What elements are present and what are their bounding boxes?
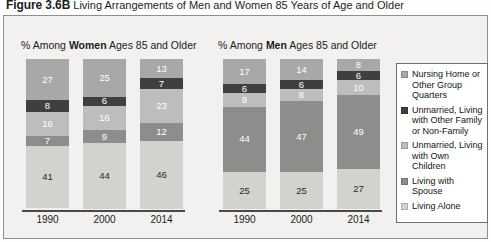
men-segment-2000-4: 25 <box>280 172 323 210</box>
women-segment-2000-1: 6 <box>83 97 126 106</box>
men-segment-2014-2: 10 <box>337 80 380 95</box>
men-value-label: 27 <box>353 184 364 194</box>
women-value-label: 46 <box>156 170 167 180</box>
legend-item-1[interactable]: Unmarried, Living with Other Family or N… <box>401 105 483 137</box>
legend-item-label: Nursing Home or Other Group Quarters <box>412 69 483 101</box>
men-tick-2000: 2000 <box>280 214 323 225</box>
women-segment-2014-4: 46 <box>140 141 183 209</box>
women-segment-1990-3: 7 <box>26 136 69 147</box>
women-segment-2014-1: 7 <box>140 78 183 88</box>
women-tick-2000: 2000 <box>83 214 126 225</box>
women-value-label: 7 <box>159 79 164 89</box>
women-segment-1990-1: 8 <box>26 100 69 112</box>
legend-item-label: Unmarried, Living with Other Family or N… <box>412 105 483 137</box>
men-value-label: 9 <box>242 95 247 105</box>
legend-item-label: Living with Spouse <box>412 176 483 197</box>
men-header-prefix: % Among <box>218 39 266 51</box>
women-segment-1990-4: 41 <box>26 146 69 208</box>
women-segment-1990-0: 27 <box>26 59 69 100</box>
women-value-label: 41 <box>42 172 53 182</box>
men-segment-2014-0: 8 <box>337 59 380 71</box>
women-value-label: 44 <box>99 171 110 181</box>
men-tick-1990: 1990 <box>223 214 266 225</box>
men-value-label: 6 <box>299 80 304 89</box>
legend-swatch-icon <box>401 142 408 149</box>
men-segment-2014-4: 27 <box>337 169 380 210</box>
men-value-label: 14 <box>296 65 307 75</box>
figure-caption: Living Arrangements of Men and Women 85 … <box>70 0 404 11</box>
men-axis-line <box>219 210 382 212</box>
men-segment-2000-3: 47 <box>280 101 323 172</box>
women-stacked-bar-chart: 2781674125616944137231246 199020002014 <box>18 59 193 226</box>
women-bar-column-2000: 25616944 <box>83 59 126 209</box>
legend-item-4[interactable]: Living Alone <box>401 201 483 212</box>
men-segment-2000-1: 6 <box>280 80 323 89</box>
women-bar-column-2014: 137231246 <box>140 59 183 209</box>
men-value-label: 49 <box>353 127 364 137</box>
figure-number: Figure 3.6B <box>6 0 70 12</box>
women-tick-2014: 2014 <box>140 214 183 225</box>
figure-root: Figure 3.6B Living Arrangements of Men a… <box>0 0 491 242</box>
men-value-label: 10 <box>353 83 364 93</box>
men-chart-header: % Among Men Ages 85 and Older <box>218 39 377 51</box>
women-header-suffix: Ages 85 and Older <box>107 39 197 51</box>
legend-swatch-icon <box>401 71 408 78</box>
women-segment-2000-2: 16 <box>83 106 126 130</box>
men-segment-1990-3: 44 <box>223 107 266 172</box>
legend-item-3[interactable]: Living with Spouse <box>401 176 483 197</box>
legend-item-2[interactable]: Unmarried, Living with Own Children <box>401 140 483 172</box>
women-value-label: 23 <box>156 101 167 111</box>
men-value-label: 25 <box>239 186 250 196</box>
women-bar-columns: 2781674125616944137231246 <box>18 59 193 209</box>
women-value-label: 16 <box>99 113 110 123</box>
men-value-label: 25 <box>296 186 307 196</box>
women-segment-2000-0: 25 <box>83 59 126 97</box>
men-value-label: 47 <box>296 132 307 142</box>
women-segment-2000-3: 9 <box>83 130 126 144</box>
women-value-label: 9 <box>102 132 107 142</box>
women-value-label: 16 <box>42 119 53 129</box>
women-value-label: 13 <box>156 64 167 74</box>
men-value-label: 6 <box>242 84 247 93</box>
legend-swatch-icon <box>401 203 408 210</box>
men-segment-2000-2: 8 <box>280 89 323 101</box>
men-value-label: 44 <box>239 134 250 144</box>
women-value-label: 25 <box>99 73 110 83</box>
men-value-label: 8 <box>356 60 361 70</box>
legend-item-label: Living Alone <box>412 201 461 212</box>
women-segment-2014-3: 12 <box>140 123 183 141</box>
figure-panel: % Among Women Ages 85 and Older % Among … <box>3 15 488 239</box>
women-segment-2014-0: 13 <box>140 59 183 78</box>
women-value-label: 8 <box>45 101 50 111</box>
men-segment-1990-0: 17 <box>223 59 266 84</box>
men-segment-2014-1: 6 <box>337 71 380 80</box>
figure-title: Figure 3.6B Living Arrangements of Men a… <box>6 0 486 13</box>
men-header-emphasis: Men <box>266 39 287 51</box>
men-axis-tick-labels: 199020002014 <box>215 214 390 228</box>
men-segment-2000-0: 14 <box>280 59 323 80</box>
legend-swatch-icon <box>401 178 408 185</box>
men-segment-1990-4: 25 <box>223 172 266 209</box>
women-chart-header: % Among Women Ages 85 and Older <box>21 39 197 51</box>
legend-item-label: Unmarried, Living with Own Children <box>412 140 483 172</box>
men-value-label: 17 <box>239 67 250 77</box>
legend-swatch-icon <box>401 107 408 114</box>
women-header-prefix: % Among <box>21 39 69 51</box>
women-value-label: 7 <box>45 136 50 146</box>
men-value-label: 6 <box>356 71 361 80</box>
men-bar-columns: 176944251468472586104927 <box>215 59 390 209</box>
men-bar-column-1990: 17694425 <box>223 59 266 209</box>
men-bar-column-2000: 14684725 <box>280 59 323 209</box>
women-axis-line <box>22 210 185 212</box>
women-segment-1990-2: 16 <box>26 112 69 136</box>
chart-legend: Nursing Home or Other Group QuartersUnma… <box>396 63 488 223</box>
men-value-label: 8 <box>299 90 304 100</box>
women-axis-tick-labels: 199020002014 <box>18 214 193 228</box>
men-segment-1990-1: 6 <box>223 84 266 93</box>
women-bar-column-1990: 27816741 <box>26 59 69 209</box>
men-segment-2014-3: 49 <box>337 95 380 169</box>
legend-item-0[interactable]: Nursing Home or Other Group Quarters <box>401 69 483 101</box>
women-segment-2014-2: 23 <box>140 89 183 123</box>
women-value-label: 6 <box>102 97 107 106</box>
women-value-label: 27 <box>42 75 53 85</box>
